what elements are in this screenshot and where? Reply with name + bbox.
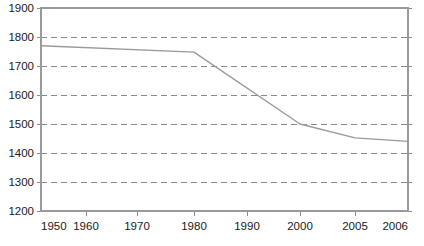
gridlines bbox=[41, 38, 408, 183]
x-tick-label: 2005 bbox=[342, 220, 368, 232]
y-tick-label: 1300 bbox=[8, 176, 34, 188]
tick-marks bbox=[37, 9, 412, 217]
x-tick-label: 1980 bbox=[181, 220, 207, 232]
y-tick-label: 1700 bbox=[8, 60, 34, 72]
y-tick-label: 1200 bbox=[8, 205, 34, 217]
plot-area-border bbox=[41, 8, 408, 211]
y-tick-label: 1600 bbox=[8, 89, 34, 101]
x-tick-label: 2000 bbox=[287, 220, 313, 232]
x-tick-label: 2006 bbox=[382, 220, 408, 232]
y-axis-labels: 12001300140015001600170018001900 bbox=[8, 2, 34, 217]
x-tick-label: 1970 bbox=[124, 220, 150, 232]
data-series-line bbox=[41, 46, 408, 142]
x-tick-label: 1960 bbox=[73, 220, 99, 232]
line-chart: 12001300140015001600170018001900 1950196… bbox=[0, 0, 424, 246]
chart-canvas: 12001300140015001600170018001900 1950196… bbox=[0, 0, 424, 246]
x-axis-labels: 19501960197019801990200020052006 bbox=[41, 220, 408, 232]
x-tick-label: 1950 bbox=[41, 220, 67, 232]
y-tick-label: 1500 bbox=[8, 118, 34, 130]
x-tick-label: 1990 bbox=[234, 220, 260, 232]
y-tick-label: 1800 bbox=[8, 31, 34, 43]
y-tick-label: 1400 bbox=[8, 147, 34, 159]
y-tick-label: 1900 bbox=[8, 2, 34, 14]
